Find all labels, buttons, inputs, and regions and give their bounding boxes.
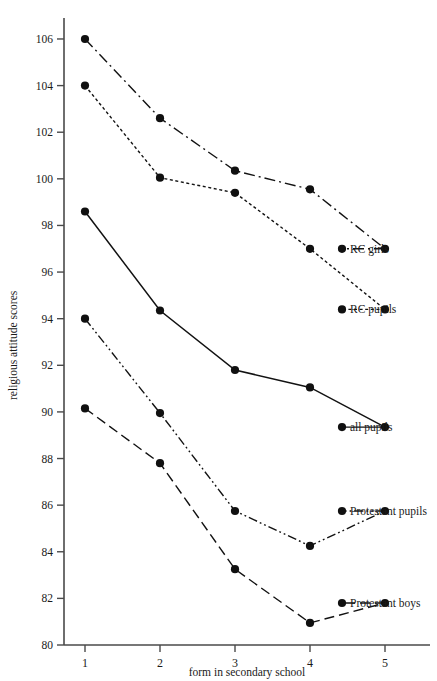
series-line-all-pupils [85,212,385,428]
data-point [306,542,314,550]
data-point [81,315,89,323]
data-point [81,404,89,412]
line-chart: 80828486889092949698100102104106 12345 R… [0,0,437,681]
legend-marker-rc-girls [338,245,346,253]
legend-label-protestant-boys: Protestant boys [350,597,421,610]
x-tick-label: 4 [307,656,313,670]
y-tick-label: 80 [42,639,54,651]
data-point [306,383,314,391]
series-line-rc-girls [85,39,385,249]
legend-marker-rc-pupils [338,305,346,313]
data-point [231,189,239,197]
data-point [306,619,314,627]
x-tick-label: 1 [82,656,88,670]
data-point [306,185,314,193]
y-tick-label: 94 [42,313,54,325]
y-tick-label: 104 [36,80,54,92]
data-point [231,507,239,515]
data-point [231,565,239,573]
x-axis-title: form in secondary school [189,666,306,679]
legend-label-rc-pupils: RC pupils [350,303,397,316]
data-point [81,207,89,215]
y-tick-label: 102 [36,126,54,138]
data-point [156,459,164,467]
markers-layer [81,35,389,627]
legend-label-rc-girls: RC girls [350,243,389,256]
data-point [156,306,164,314]
y-tick-label: 84 [42,546,54,558]
y-tick-group: 80828486889092949698100102104106 [36,33,64,651]
y-tick-label: 90 [42,406,54,418]
y-tick-label: 86 [42,499,54,511]
legend-marker-all-pupils [338,423,346,431]
y-axis-title: religious attitude scores [7,290,20,400]
x-tick-label: 2 [157,656,163,670]
legend-marker-protestant-boys [338,599,346,607]
legend-label-protestant-pupils: Protestant pupils [350,505,428,518]
data-point [81,82,89,90]
series-layer [85,39,385,623]
y-tick-label: 88 [42,453,54,465]
data-point [156,114,164,122]
legend-marker-protestant-pupils [338,507,346,515]
y-tick-label: 106 [36,33,54,45]
data-point [306,245,314,253]
data-point [231,366,239,374]
legend-label-all-pupils: all pupils [350,421,393,434]
y-tick-label: 96 [42,266,54,278]
y-tick-label: 98 [42,219,54,231]
data-point [156,174,164,182]
y-tick-label: 82 [42,592,54,604]
data-point [156,409,164,417]
data-point [81,35,89,43]
series-line-rc-pupils [85,86,385,310]
series-line-protestant-boys [85,408,385,623]
legend-layer: RC girlsRC pupilsall pupilsProtestant pu… [338,243,428,610]
data-point [231,167,239,175]
chart-container: 80828486889092949698100102104106 12345 R… [0,0,437,681]
y-tick-label: 100 [36,173,54,185]
y-tick-label: 92 [42,359,54,371]
x-tick-label: 5 [382,656,388,670]
